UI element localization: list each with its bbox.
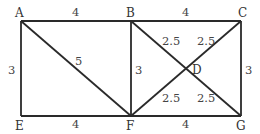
graph-diagram: A B C D E F G 4 4 3 5 3 3 4 4 2.5 2.5 2.…: [0, 0, 260, 134]
weight-b-f: 3: [135, 63, 142, 77]
weight-a-e: 3: [8, 63, 15, 77]
weight-g-d: 2.5: [197, 91, 215, 105]
weight-f-d: 2.5: [162, 91, 180, 105]
node-g-label: G: [236, 119, 246, 133]
node-f-label: F: [126, 119, 134, 133]
weight-c-g: 3: [245, 63, 252, 77]
node-a-label: A: [14, 6, 24, 20]
node-c-label: C: [238, 6, 247, 20]
node-b-label: B: [126, 6, 135, 20]
weight-a-f: 5: [75, 54, 82, 68]
weight-f-g: 4: [182, 117, 189, 131]
edge-a-f: [21, 21, 131, 116]
weight-c-d: 2.5: [197, 34, 215, 48]
node-e-label: E: [15, 119, 24, 133]
weight-b-c: 4: [182, 5, 189, 19]
weight-a-b: 4: [72, 5, 79, 19]
weight-e-f: 4: [72, 117, 79, 131]
node-d-label: D: [192, 63, 202, 77]
weight-b-d: 2.5: [162, 34, 180, 48]
